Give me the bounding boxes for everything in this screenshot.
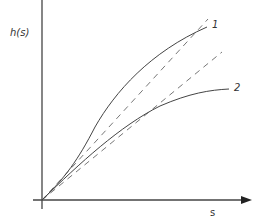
- curve-2-label: 2: [234, 82, 240, 93]
- x-axis-label: s: [210, 207, 215, 218]
- x-axis-arrow-icon: [241, 196, 252, 204]
- curve-1-label: 1: [212, 19, 218, 30]
- y-axis-label: h(s): [10, 27, 29, 38]
- curve-1: [42, 27, 207, 200]
- dashed-tangent-2: [42, 52, 222, 200]
- curve-2: [42, 89, 229, 200]
- chart-canvas: [0, 0, 268, 224]
